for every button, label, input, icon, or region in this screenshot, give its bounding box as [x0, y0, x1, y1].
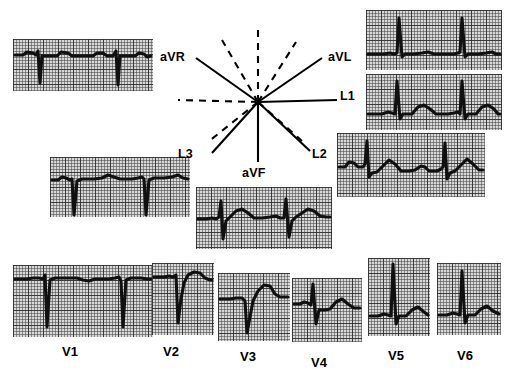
ecg-trace-V1	[13, 265, 153, 337]
axis-ray-aVL-negative	[208, 102, 258, 142]
ecg-strip-V5	[368, 258, 430, 336]
ecg-trace-V5	[368, 258, 430, 336]
axis-ray-L2	[258, 102, 310, 151]
lead-label-V6: V6	[457, 348, 473, 363]
lead-label-V2: V2	[163, 344, 179, 359]
ecg-strip-V4	[292, 278, 362, 342]
lead-label-V4: V4	[311, 355, 327, 370]
ecg-trace-L1	[366, 74, 502, 130]
ecg-strip-V6	[437, 263, 501, 335]
ecg-strip-L1	[366, 74, 502, 130]
ecg-trace-V3	[218, 273, 290, 341]
ecg-strip-V3	[218, 273, 290, 341]
ecg-trace-aVF	[196, 187, 332, 249]
ecg-strip-aVL	[366, 10, 502, 70]
ecg-trace-V6	[437, 263, 501, 335]
axis-label-L3: L3	[178, 147, 193, 161]
axis-ray-L3	[212, 102, 258, 153]
ecg-strip-V1	[13, 265, 153, 337]
axis-ray-L1	[258, 100, 337, 102]
lead-label-V1: V1	[62, 344, 78, 359]
axis-label-L2: L2	[312, 147, 327, 161]
lead-label-V3: V3	[240, 349, 256, 364]
ecg-figure: aVR aVL L1 L2 L3 aVF V1 V2 V3 V4 V5 V6	[0, 0, 508, 381]
axis-ray-L1-negative	[178, 100, 258, 102]
ecg-trace-V4	[292, 278, 362, 342]
axis-origin	[255, 99, 261, 105]
axis-label-L1: L1	[340, 89, 355, 103]
ecg-strip-V2	[152, 263, 214, 335]
axis-ray-L2-negative	[222, 40, 258, 102]
ecg-trace-aVL	[366, 10, 502, 70]
ecg-trace-aVR	[13, 39, 153, 91]
ecg-strip-aVR	[13, 39, 153, 91]
ecg-trace-V2	[152, 263, 214, 335]
ecg-strip-aVF	[196, 187, 332, 249]
axis-ray-aVL	[258, 58, 322, 102]
axis-ray-aVR	[196, 58, 258, 102]
lead-label-V5: V5	[388, 348, 404, 363]
axis-label-aVR: aVR	[160, 50, 185, 64]
axis-label-aVL: aVL	[328, 50, 352, 64]
axis-ray-L3-negative	[258, 42, 296, 102]
axis-label-aVF: aVF	[242, 166, 266, 180]
